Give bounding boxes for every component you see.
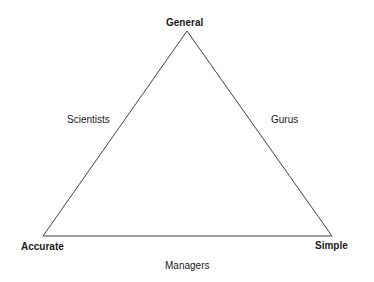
edge-label-gurus: Gurus — [271, 114, 298, 126]
vertex-label-accurate: Accurate — [21, 241, 64, 253]
vertex-label-general: General — [166, 17, 203, 29]
vertex-label-simple: Simple — [315, 240, 348, 252]
triangle-shape — [43, 31, 332, 236]
edge-label-scientists: Scientists — [67, 114, 110, 126]
edge-label-managers: Managers — [165, 260, 209, 272]
